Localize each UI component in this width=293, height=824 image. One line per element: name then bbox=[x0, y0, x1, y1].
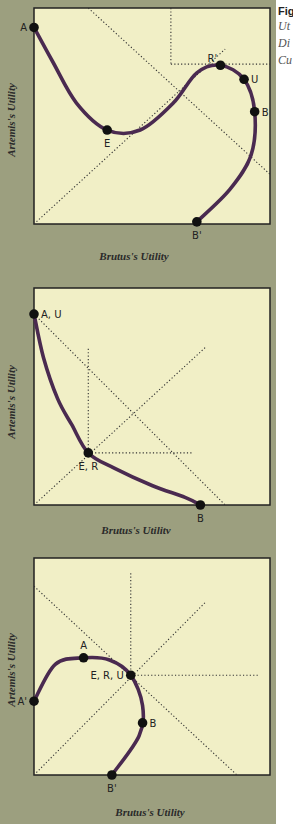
point-label: U bbox=[251, 74, 258, 85]
plot-area bbox=[34, 558, 270, 775]
point-b-marker bbox=[138, 718, 148, 728]
x-axis-label: Brutus's Utility bbox=[98, 250, 169, 262]
point-label: B' bbox=[192, 230, 202, 241]
point-label: A, U bbox=[41, 309, 62, 320]
point-label: B' bbox=[107, 783, 117, 794]
point-b-marker bbox=[196, 500, 206, 510]
point-e-marker bbox=[102, 125, 112, 135]
point-u-marker bbox=[239, 74, 249, 84]
point-label: R' bbox=[208, 53, 218, 64]
y-axis-label: Artemis's Utility bbox=[5, 633, 17, 708]
x-axis-label: Brutus's Utility bbox=[100, 524, 171, 534]
point-b-marker bbox=[107, 770, 117, 780]
diagram-panel-1: Artemis's Utility Brutus's Utility AER'U… bbox=[0, 0, 276, 272]
figure-label: Fig bbox=[278, 4, 293, 18]
caption-line: Ut bbox=[278, 18, 293, 35]
point-label: B bbox=[150, 718, 157, 729]
point-label: E, R bbox=[78, 461, 98, 472]
diagram-panel-3: Artemis's Utility Brutus's Utility A'AE,… bbox=[0, 534, 276, 824]
point-er-marker bbox=[83, 448, 93, 458]
point-label: A bbox=[80, 640, 87, 651]
point-label: A' bbox=[17, 696, 27, 707]
point-label: E bbox=[104, 138, 110, 149]
point-label: B bbox=[197, 513, 204, 524]
point-label: B bbox=[262, 107, 269, 118]
point-label: A bbox=[20, 22, 27, 33]
x-axis-label: Brutus's Utility bbox=[114, 806, 185, 818]
y-axis-label: Artemis's Utility bbox=[5, 83, 17, 158]
point-a-marker bbox=[29, 23, 39, 33]
diagram-panel-2: Artemis's Utility Brutus's Utility A, UE… bbox=[0, 272, 276, 534]
point-a-marker bbox=[79, 653, 89, 663]
figure-caption: Fig Ut Di Cu bbox=[278, 4, 293, 69]
point-eru-marker bbox=[126, 670, 136, 680]
point-b-marker bbox=[250, 107, 260, 117]
point-label: E, R, U bbox=[90, 670, 123, 681]
y-axis-label: Artemis's Utility bbox=[5, 365, 17, 440]
caption-line: Cu bbox=[278, 52, 293, 69]
point-au-marker bbox=[29, 309, 39, 319]
point-b-marker bbox=[192, 217, 202, 227]
point-a-marker bbox=[29, 696, 39, 706]
caption-line: Di bbox=[278, 35, 293, 52]
